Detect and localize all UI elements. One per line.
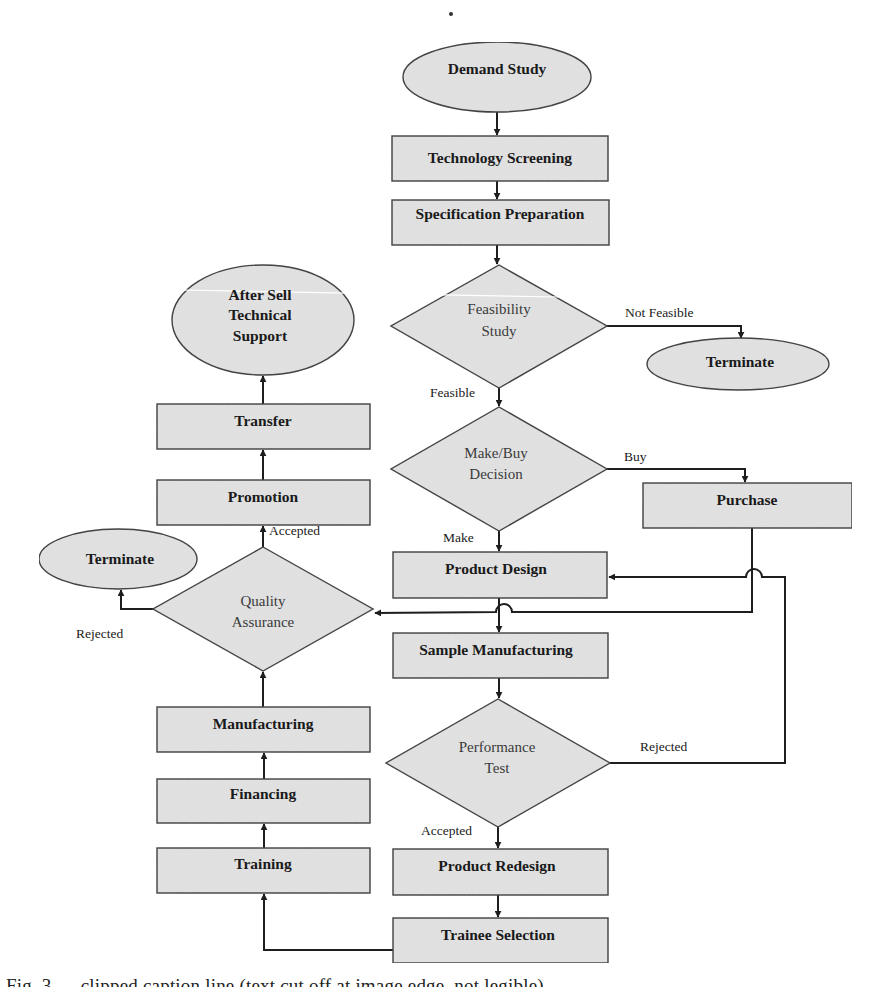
label-feasibility-line1: Feasibility (467, 301, 531, 317)
node-demand-study[interactable] (403, 42, 591, 112)
caption-text: Fig. 3 — clipped caption line (text cut … (6, 974, 876, 987)
label-promotion: Promotion (228, 488, 299, 505)
label-aftersell-line3: Support (233, 327, 288, 344)
edge-label-perf-accepted: Accepted (421, 823, 472, 838)
label-demand-study: Demand Study (448, 60, 547, 77)
edge-label-buy: Buy (624, 449, 647, 464)
edge-notfeasible-to-terminate (605, 326, 741, 338)
label-makebuy-line1: Make/Buy (464, 445, 528, 461)
label-training: Training (234, 855, 292, 872)
label-transfer: Transfer (234, 412, 292, 429)
label-qa-line1: Quality (241, 593, 286, 609)
edge-buy-to-purchase (605, 469, 745, 482)
label-specification-preparation: Specification Preparation (416, 205, 585, 222)
flowchart-svg: Demand Study Technology Screening Specif… (0, 0, 876, 987)
stray-dot (449, 12, 453, 16)
edge-label-qa-rejected: Rejected (76, 626, 123, 641)
edge-label-feasible: Feasible (430, 385, 475, 400)
label-technology-screening: Technology Screening (428, 149, 573, 166)
edge-label-qa-accepted: Accepted (269, 523, 320, 538)
label-product-redesign: Product Redesign (438, 857, 556, 874)
label-terminate-left: Terminate (86, 550, 154, 567)
label-sample-manufacturing: Sample Manufacturing (419, 641, 573, 658)
figure-caption-clipped: Fig. 3 — clipped caption line (text cut … (6, 974, 876, 987)
label-terminate-right: Terminate (706, 353, 774, 370)
label-purchase: Purchase (717, 491, 778, 508)
label-makebuy-line2: Decision (469, 466, 523, 482)
label-trainee-selection: Trainee Selection (441, 926, 555, 943)
label-product-design: Product Design (445, 560, 547, 577)
label-aftersell-line1: After Sell (229, 286, 293, 303)
label-financing: Financing (230, 785, 297, 802)
flowchart-canvas: Demand Study Technology Screening Specif… (0, 0, 876, 987)
label-performance-line1: Performance (459, 739, 536, 755)
edge-perf-rejected-to-productdesign (609, 569, 785, 763)
label-qa-line2: Assurance (232, 614, 295, 630)
edge-label-not-feasible: Not Feasible (625, 305, 694, 320)
edge-label-perf-rejected: Rejected (640, 739, 687, 754)
label-performance-line2: Test (485, 760, 511, 776)
edge-label-make: Make (443, 530, 474, 545)
label-feasibility-line2: Study (481, 323, 517, 339)
label-aftersell-line2: Technical (228, 306, 292, 323)
label-manufacturing: Manufacturing (213, 715, 314, 732)
edge-trainee-to-training (264, 894, 393, 950)
edge-qa-rejected-to-terminate (121, 590, 153, 609)
